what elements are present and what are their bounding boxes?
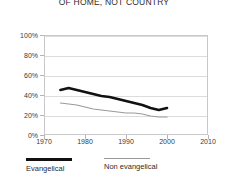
y-tick-label: 60% <box>2 72 38 79</box>
legend-label-non-evangelical: Non evangelical <box>104 162 157 171</box>
x-tick-label: 1970 <box>24 138 64 145</box>
legend-item-evangelical: Evangelical <box>26 158 72 173</box>
x-tick-mark <box>126 135 127 139</box>
y-tick-label: 20% <box>2 112 38 119</box>
chart-legend: Evangelical Non evangelical <box>26 158 226 184</box>
y-tick-label: 40% <box>2 92 38 99</box>
legend-label-evangelical: Evangelical <box>26 164 72 173</box>
y-tick-label: 100% <box>2 32 38 39</box>
chart-title: OF HOME, NOT COUNTRY <box>0 0 228 7</box>
x-tick-mark <box>85 135 86 139</box>
y-tick-label: 80% <box>2 52 38 59</box>
line-chart: OF HOME, NOT COUNTRY 0%20%40%60%80%100% … <box>0 0 228 188</box>
x-tick-label: 1990 <box>106 138 146 145</box>
x-tick-mark <box>44 135 45 139</box>
x-tick-label: 2010 <box>188 138 228 145</box>
series-line-evangelical <box>60 88 167 110</box>
series-line-non-evangelical <box>60 103 167 117</box>
x-tick-mark <box>167 135 168 139</box>
legend-line-swatch-evangelical <box>26 158 72 161</box>
legend-item-non-evangelical: Non evangelical <box>104 158 157 171</box>
x-tick-mark <box>208 135 209 139</box>
legend-line-swatch-non-evangelical <box>104 158 150 159</box>
x-tick-label: 1980 <box>65 138 105 145</box>
series-layer <box>44 35 208 135</box>
x-tick-label: 2000 <box>147 138 187 145</box>
